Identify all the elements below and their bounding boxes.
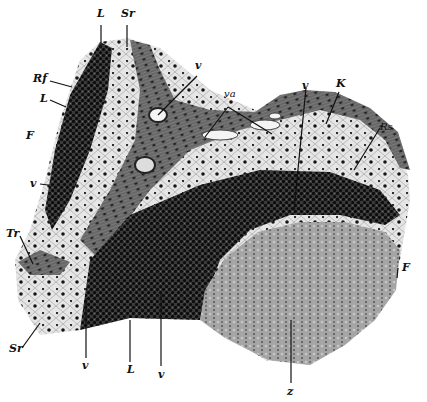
label-Tr: Tr: [6, 228, 19, 239]
label-F-left: F: [26, 130, 34, 141]
label-L-left: L: [40, 93, 48, 104]
label-v-bottom-1: v: [82, 360, 88, 371]
tissue-section: [15, 38, 410, 365]
label-va: va: [224, 89, 236, 99]
label-L-top: L: [97, 8, 105, 19]
label-v-left: v: [30, 178, 36, 189]
label-v-bottom-2: v: [158, 369, 164, 380]
label-z: z: [287, 386, 293, 397]
histology-figure: [0, 0, 427, 402]
label-K: K: [336, 78, 346, 89]
label-F-right: F: [402, 262, 410, 273]
label-Sr-top: Sr: [121, 8, 135, 19]
label-Rf: Rf: [33, 73, 47, 84]
label-v-mid: v: [302, 80, 308, 91]
label-L-bottom: L: [127, 364, 135, 375]
label-Rs: Rs: [380, 122, 393, 132]
label-Sr-bottom: Sr: [9, 343, 23, 354]
label-v-upper: v: [195, 60, 201, 71]
